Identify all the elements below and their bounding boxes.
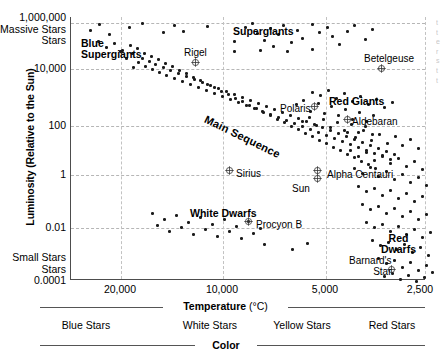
right-margin-cutoff-text: tterstt (436, 18, 447, 85)
star-label-polaris: Polaris (280, 104, 311, 115)
star-point (389, 189, 392, 192)
star-marker-polaris (310, 102, 319, 111)
star-point (98, 23, 101, 26)
star-point (163, 218, 166, 221)
star-point (169, 69, 172, 72)
star-point (337, 132, 340, 135)
star-point (192, 233, 195, 236)
star-point (317, 131, 320, 134)
star-point (311, 23, 314, 26)
star-point (393, 178, 396, 181)
star-point (397, 197, 400, 200)
star-point (262, 111, 265, 114)
star-point (165, 74, 168, 77)
color-title-rule-right (255, 345, 425, 346)
star-marker-sun (313, 174, 322, 183)
star-point (173, 77, 176, 80)
star-point (213, 86, 216, 89)
star-point (327, 89, 330, 92)
star-point (346, 30, 349, 33)
star-point (209, 84, 212, 87)
y-tick-10000-group: 10,000 (0, 63, 66, 75)
star-point (332, 146, 335, 149)
star-point (128, 26, 131, 29)
star-point (364, 38, 367, 41)
star-point (220, 90, 223, 93)
star-point (199, 79, 202, 82)
margin-text-fragment: t (436, 66, 447, 76)
margin-text-fragment: s (436, 56, 447, 66)
margin-text-fragment: t (436, 28, 447, 38)
star-point (326, 26, 329, 29)
star-point (417, 147, 420, 150)
star-point (354, 136, 357, 139)
star-point (240, 237, 243, 240)
star-point (338, 43, 341, 46)
star-point (227, 93, 230, 96)
x-tick-label-5000: 5,000 (295, 283, 355, 295)
star-point (413, 160, 416, 163)
y-tick-100-group: 100 (0, 120, 66, 132)
star-point (89, 29, 92, 32)
star-point (148, 60, 151, 63)
star-point (325, 134, 328, 137)
vgridline-10,000 (223, 17, 224, 279)
star-point (336, 121, 339, 124)
star-point (371, 239, 374, 242)
y-tick-label-1000000: 1,000,000 (0, 12, 66, 24)
star-point (162, 31, 165, 34)
star-point (419, 246, 422, 249)
star-point (377, 205, 380, 208)
star-label-sirius: Sirius (236, 169, 261, 180)
star-point (290, 125, 293, 128)
star-point (409, 138, 412, 141)
x-axis-title: Temperature (°C) (163, 300, 288, 312)
star-point (357, 185, 360, 188)
star-point (365, 190, 368, 193)
star-point (171, 65, 174, 68)
star-point (405, 165, 408, 168)
vgridline-2,500 (425, 17, 426, 279)
margin-text-fragment: e (436, 37, 447, 47)
color-label-blue: Blue Stars (38, 319, 134, 331)
star-point (425, 264, 428, 267)
plot-area: RigelBetelgeusePolarisAldebaranSiriusAlp… (70, 17, 425, 280)
star-point (206, 25, 209, 28)
y-axis-note-small: Small Stars (0, 252, 66, 264)
star-point (401, 266, 404, 269)
star-point (216, 235, 219, 238)
star-point (297, 128, 300, 131)
y-tick-label-00001: 0.0001 (0, 275, 66, 287)
star-point (346, 131, 349, 134)
region-label-white-dwarfs: White Dwarfs (190, 208, 257, 219)
star-point (296, 29, 299, 32)
star-point (385, 212, 388, 215)
star-point (151, 212, 154, 215)
star-point (344, 108, 347, 111)
x-axis-unit: (°C) (249, 300, 268, 312)
star-point (233, 93, 236, 96)
star-point (180, 226, 183, 229)
star-point (157, 58, 160, 61)
star-point (423, 276, 426, 279)
star-point (173, 24, 176, 27)
y-tick-0.0001-group: Small Stars Stars 0.0001 (0, 252, 66, 287)
star-point (178, 69, 181, 72)
star-point (346, 153, 349, 156)
region-label-blue-supergiants: BlueSupergiants (81, 38, 142, 60)
star-point (357, 146, 360, 149)
star-label-alpha-centauri: Alpha Centauri (327, 170, 393, 181)
star-point (311, 91, 314, 94)
star-point (362, 129, 365, 132)
star-point (272, 45, 275, 48)
star-point (401, 144, 404, 147)
region-label-red-dwarfs: RedDwarfs (381, 233, 416, 255)
star-point (234, 97, 237, 100)
star-point (389, 158, 392, 161)
star-point (373, 187, 376, 190)
star-point (421, 195, 424, 198)
star-point (353, 156, 356, 159)
star-point (252, 232, 255, 235)
color-title-rule-left (40, 345, 215, 346)
star-point (409, 261, 412, 264)
